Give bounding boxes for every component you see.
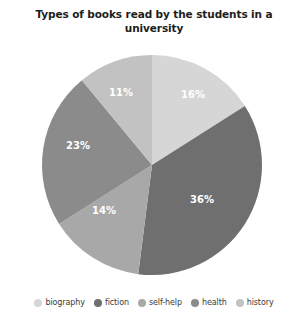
pie-chart-card: Types of books read by the students in a… bbox=[0, 0, 308, 315]
legend-label-fiction: fiction bbox=[105, 298, 129, 307]
legend-label-biography: biography bbox=[45, 298, 84, 307]
pie-plot-area: 16%36%14%23%11% bbox=[0, 48, 308, 284]
pie-slice-label-self-help: 14% bbox=[92, 205, 116, 216]
pie-svg: 16%36%14%23%11% bbox=[0, 48, 308, 284]
pie-slice-label-history: 11% bbox=[109, 87, 133, 98]
legend-item-biography[interactable]: biography bbox=[34, 298, 84, 307]
legend-swatch-icon-history bbox=[236, 299, 244, 307]
pie-slice-label-biography: 16% bbox=[181, 89, 205, 100]
legend-label-history: history bbox=[247, 298, 274, 307]
pie-slice-label-fiction: 36% bbox=[190, 194, 214, 205]
legend-label-self-help: self-help bbox=[149, 298, 182, 307]
chart-title: Types of books read by the students in a… bbox=[18, 7, 290, 35]
legend-swatch-icon-self-help bbox=[138, 299, 146, 307]
legend-item-fiction[interactable]: fiction bbox=[94, 298, 129, 307]
legend-swatch-icon-fiction bbox=[94, 299, 102, 307]
legend-label-health: health bbox=[202, 298, 227, 307]
chart-legend: biographyfictionself-helphealthhistory bbox=[0, 298, 308, 307]
legend-item-health[interactable]: health bbox=[191, 298, 227, 307]
legend-swatch-icon-biography bbox=[34, 299, 42, 307]
legend-swatch-icon-health bbox=[191, 299, 199, 307]
legend-item-history[interactable]: history bbox=[236, 298, 274, 307]
pie-slice-group bbox=[42, 55, 262, 275]
legend-item-self-help[interactable]: self-help bbox=[138, 298, 182, 307]
pie-slice-label-health: 23% bbox=[66, 140, 90, 151]
